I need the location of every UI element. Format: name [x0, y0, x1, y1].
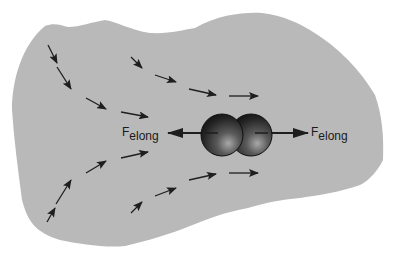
- dumbbell-molecule: [201, 114, 272, 156]
- diagram-canvas: Felong Felong: [0, 0, 395, 260]
- sphere-left: [201, 114, 243, 156]
- force-subscript: elong: [318, 129, 347, 143]
- force-subscript: elong: [129, 129, 158, 143]
- force-label-left: Felong: [122, 126, 159, 138]
- force-label-right: Felong: [311, 126, 348, 138]
